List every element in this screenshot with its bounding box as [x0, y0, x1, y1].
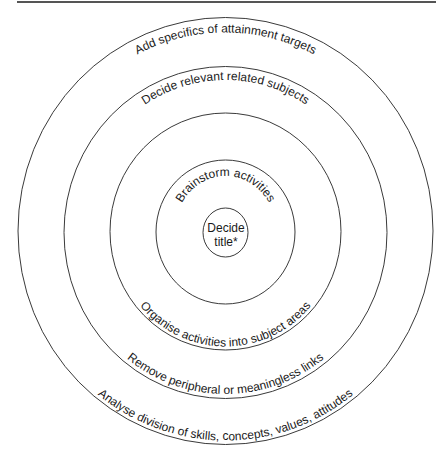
ring-2-bottom-label: Organise activities into subject areas [138, 299, 314, 350]
center-label-line2: title* [214, 235, 238, 249]
center-label-line1: Decide [207, 221, 245, 235]
ring-3-top-label: Decide relevant related subjects [139, 69, 312, 107]
concentric-diagram: Brainstorm activities Organise activitie… [0, 0, 445, 456]
ring-3-bottom-label: Remove peripheral or meaningless links [125, 350, 326, 397]
ring-4-top-label: Add specifics of attainment targets [132, 21, 319, 57]
